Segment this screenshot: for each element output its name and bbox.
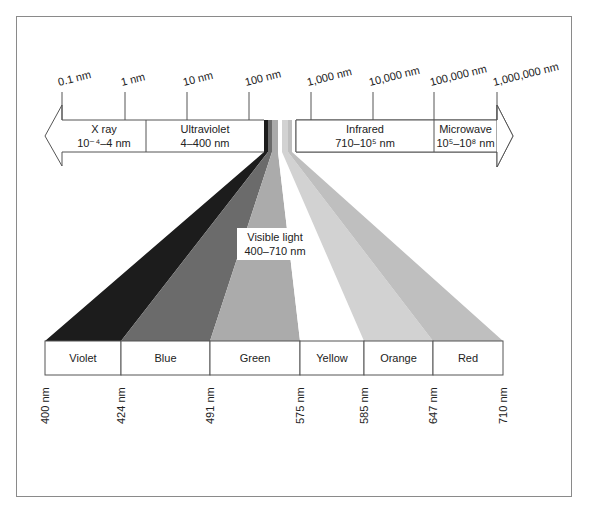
color-name: Violet xyxy=(69,352,96,364)
boundary-label: 575 nm xyxy=(294,387,306,424)
band-name-x-ray: X ray xyxy=(91,123,117,135)
band-range: 10⁵–10⁸ nm xyxy=(436,137,494,149)
scale-tick-label: 100 nm xyxy=(244,67,283,88)
scale-tick-label: 1,000,000 nm xyxy=(492,60,560,88)
scale-tick-label: 10,000 nm xyxy=(368,64,421,88)
band-name-ultraviolet: Ultraviolet xyxy=(181,123,230,135)
band-range: 10⁻⁴–4 nm xyxy=(77,137,131,149)
visible-light-title: Visible light xyxy=(247,231,302,243)
color-name: Yellow xyxy=(316,352,347,364)
boundary-label: 400 nm xyxy=(39,387,51,424)
color-name: Blue xyxy=(154,352,176,364)
band-range: 710–10⁵ nm xyxy=(335,137,395,149)
band-name-microwave: Microwave xyxy=(439,123,492,135)
scale-tick-label: 0.1 nm xyxy=(57,68,93,88)
scale-tick-label: 1 nm xyxy=(120,70,147,88)
wavelength-scale: 0.1 nm1 nm10 nm100 nm1,000 nm10,000 nm10… xyxy=(57,60,560,120)
boundary-label: 491 nm xyxy=(204,387,216,424)
color-boundary-labels: 400 nm424 nm491 nm575 nm585 nm647 nm710 … xyxy=(39,387,509,424)
color-name: Green xyxy=(240,352,271,364)
boundary-label: 585 nm xyxy=(358,387,370,424)
scale-tick-label: 1,000 nm xyxy=(306,65,353,88)
visible-color-bands: VioletBlueGreenYellowOrangeRed xyxy=(45,341,503,375)
color-name: Red xyxy=(458,352,478,364)
spectrum-diagram: 0.1 nm1 nm10 nm100 nm1,000 nm10,000 nm10… xyxy=(0,0,590,511)
band-range: 4–400 nm xyxy=(181,137,230,149)
visible-light-range: 400–710 nm xyxy=(244,245,305,257)
arrow-right-head xyxy=(497,105,513,167)
scale-tick-label: 100,000 nm xyxy=(429,62,488,88)
color-name: Orange xyxy=(380,352,417,364)
scale-tick-label: 10 nm xyxy=(182,69,215,88)
visible-light-label: Visible light 400–710 nm xyxy=(237,228,313,260)
band-name-infrared: Infrared xyxy=(346,123,384,135)
boundary-label: 647 nm xyxy=(427,387,439,424)
boundary-label: 424 nm xyxy=(115,387,127,424)
arrow-left-half xyxy=(45,105,264,166)
boundary-label: 710 nm xyxy=(497,387,509,424)
